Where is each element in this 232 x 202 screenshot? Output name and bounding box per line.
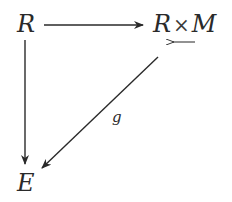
- node-r-times-m: R×M: [153, 12, 216, 37]
- node-e-text: E: [17, 169, 35, 197]
- node-r: R: [17, 12, 35, 36]
- node-r-times-m-left: R: [153, 10, 171, 38]
- node-e: E: [17, 171, 35, 195]
- commutative-diagram: R R×M E g: [0, 0, 232, 202]
- arrow-g-rxm-to-e: [42, 57, 158, 168]
- times-operator: ×: [173, 13, 190, 37]
- node-r-times-m-right: M: [192, 10, 217, 38]
- node-r-text: R: [17, 10, 35, 38]
- label-g-text: g: [112, 108, 122, 126]
- label-g: g: [112, 110, 122, 125]
